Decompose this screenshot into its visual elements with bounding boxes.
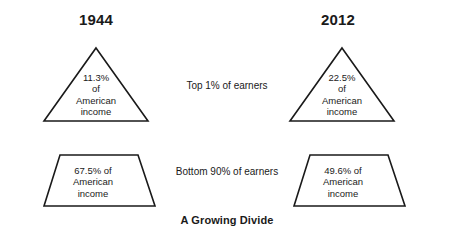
trapezoid-bottom90-1944: 67.5% of American income	[28, 152, 158, 210]
chart-title: A Growing Divide	[0, 214, 454, 226]
triangle-shape-1944	[44, 48, 148, 121]
trapezoid-shape-2012	[294, 155, 405, 206]
column-heading-1944: 1944	[36, 11, 156, 28]
row-label-bottom-90-percent: Bottom 90% of earners	[147, 166, 307, 177]
row-label-top-1-percent: Top 1% of earners	[147, 80, 307, 91]
triangle-top1-1944: 11.3% of American income	[36, 44, 156, 124]
trapezoid-bottom90-2012: 49.6% of American income	[278, 152, 408, 210]
trapezoid-shape-1944	[44, 155, 155, 206]
infographic-canvas: 1944 2012 11.3% of American income 22.5%…	[0, 0, 454, 244]
column-heading-2012: 2012	[278, 11, 398, 28]
